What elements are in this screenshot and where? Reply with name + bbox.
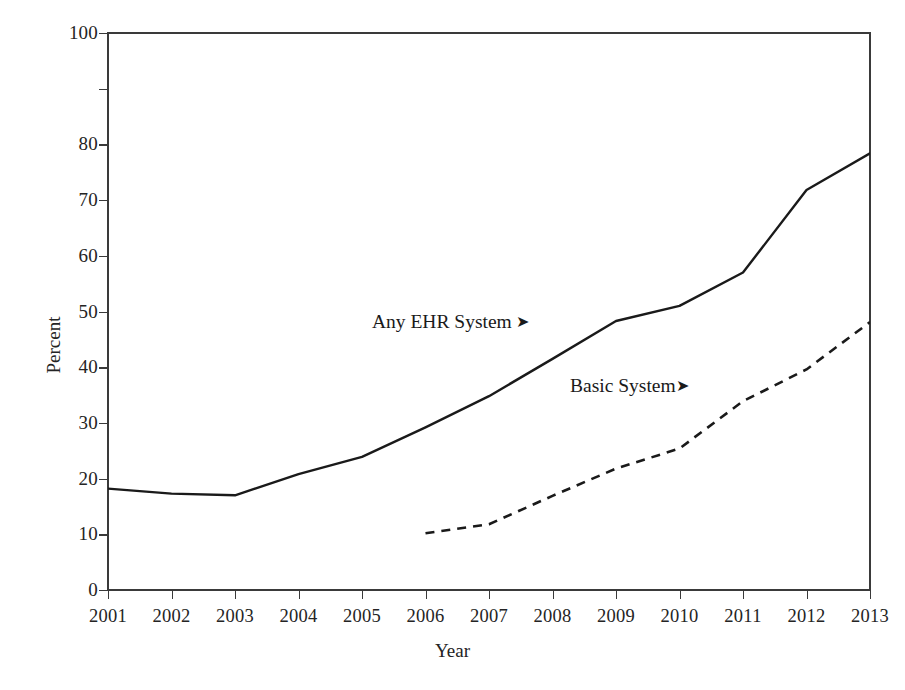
x-tick-label: 2001 <box>89 606 127 627</box>
x-tick-label: 2011 <box>724 606 762 627</box>
y-axis-title: Percent <box>43 317 65 374</box>
x-tick-mark <box>362 590 363 599</box>
annotation-basic-system: Basic System➤ <box>570 375 689 397</box>
y-tick-label: 30 <box>79 411 98 433</box>
x-tick-label: 2002 <box>152 606 190 627</box>
y-tick-mark <box>99 200 108 201</box>
arrow-right-icon: ➤ <box>516 313 529 330</box>
y-tick-mark <box>99 534 108 535</box>
y-tick-label: 60 <box>79 244 98 266</box>
series-line-basic-system <box>426 322 871 533</box>
x-tick-mark <box>299 590 300 599</box>
x-tick-label: 2008 <box>533 606 571 627</box>
x-tick-mark <box>553 590 554 599</box>
y-tick-label: 20 <box>79 467 98 489</box>
x-tick-mark <box>426 590 427 599</box>
y-tick-label: 100 <box>69 22 98 44</box>
annotation-basic-system-label: Basic System <box>570 375 676 396</box>
y-tick-mark <box>99 89 108 90</box>
x-tick-mark <box>870 590 871 599</box>
y-tick-mark <box>99 312 108 313</box>
y-tick-label: 50 <box>79 300 98 322</box>
x-tick-mark <box>235 590 236 599</box>
x-tick-mark <box>172 590 173 599</box>
x-tick-mark <box>616 590 617 599</box>
x-tick-label: 2013 <box>851 606 889 627</box>
x-tick-mark <box>680 590 681 599</box>
chart-figure: 01020304050607080100 2001200220032004200… <box>0 0 905 690</box>
x-tick-label: 2012 <box>787 606 825 627</box>
y-tick-mark <box>99 256 108 257</box>
y-tick-mark <box>99 367 108 368</box>
x-tick-mark <box>108 590 109 599</box>
x-tick-mark <box>743 590 744 599</box>
x-tick-label: 2007 <box>470 606 508 627</box>
y-tick-mark <box>99 479 108 480</box>
y-tick-mark <box>99 590 108 591</box>
y-tick-label: 80 <box>79 133 98 155</box>
annotation-any-ehr-system: Any EHR System➤ <box>372 311 529 333</box>
y-tick-mark <box>99 33 108 34</box>
x-tick-mark <box>807 590 808 599</box>
x-tick-label: 2003 <box>216 606 254 627</box>
x-tick-mark <box>489 590 490 599</box>
annotation-any-ehr-system-label: Any EHR System <box>372 311 512 332</box>
x-tick-label: 2010 <box>660 606 698 627</box>
x-tick-label: 2009 <box>597 606 635 627</box>
y-tick-label: 40 <box>79 356 98 378</box>
x-tick-label: 2005 <box>343 606 381 627</box>
y-tick-label: 70 <box>79 189 98 211</box>
x-tick-label: 2004 <box>279 606 317 627</box>
x-axis-title: Year <box>0 640 905 662</box>
arrow-right-icon: ➤ <box>676 377 689 394</box>
y-tick-label: 0 <box>88 579 98 601</box>
y-tick-mark <box>99 423 108 424</box>
x-tick-label: 2006 <box>406 606 444 627</box>
y-tick-label: 10 <box>79 523 98 545</box>
y-tick-mark <box>99 144 108 145</box>
